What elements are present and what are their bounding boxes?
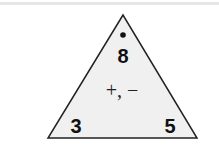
operations-label: +, − xyxy=(106,79,139,101)
bottom-right-number: 5 xyxy=(164,115,175,137)
bottom-left-number: 3 xyxy=(70,115,81,137)
top-number: 8 xyxy=(117,45,128,67)
top-dot-marker xyxy=(120,32,126,38)
fact-family-diagram: 8 +, − 3 5 xyxy=(0,0,219,154)
